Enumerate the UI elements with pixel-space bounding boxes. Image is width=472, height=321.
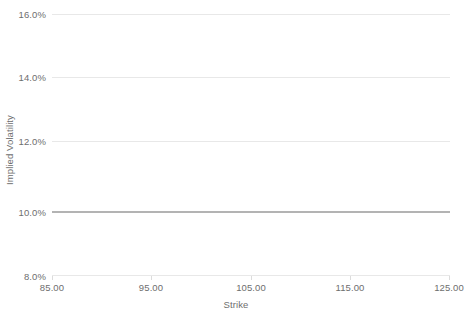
x-axis: 85.00 95.00 105.00 115.00 125.00 <box>52 276 450 300</box>
y-axis-tick-label: 12.0% <box>19 136 46 147</box>
x-axis-tick-label: 105.00 <box>236 282 266 293</box>
x-axis-tick-mark <box>350 276 351 280</box>
x-axis-title: Strike <box>0 299 472 310</box>
y-axis-tick-labels: 16.0% 14.0% 12.0% 10.0% 8.0% <box>0 0 52 321</box>
y-axis-tick-label: 10.0% <box>19 207 46 218</box>
x-axis-tick-mark <box>151 276 152 280</box>
y-axis-tick-label: 8.0% <box>24 271 46 282</box>
y-axis-tick-label: 16.0% <box>19 9 46 20</box>
x-axis-tick-label: 85.00 <box>40 282 64 293</box>
gridline-16-percent <box>52 14 450 15</box>
x-axis-tick-label: 115.00 <box>336 282 365 293</box>
x-axis-tick-mark <box>52 276 53 280</box>
series-line-implied-volatility <box>52 211 450 213</box>
x-axis-tick-label: 95.00 <box>139 282 163 293</box>
gridline-12-percent <box>52 141 450 142</box>
implied-volatility-chart: Implied Volatility 16.0% 14.0% 12.0% 10.… <box>0 0 472 321</box>
x-axis-tick-mark <box>251 276 252 280</box>
x-axis-tick-label: 125.00 <box>434 282 464 293</box>
plot-area <box>52 14 450 276</box>
gridline-14-percent <box>52 77 450 78</box>
x-axis-tick-mark <box>449 276 450 280</box>
y-axis-tick-label: 14.0% <box>19 72 46 83</box>
